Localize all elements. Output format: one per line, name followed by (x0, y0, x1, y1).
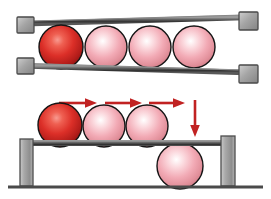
upper-sphere-2 (85, 26, 127, 68)
arrow-down-1 (190, 100, 200, 137)
upper-sphere-4 (173, 26, 215, 68)
lower-shelf-rail (29, 141, 223, 146)
cap-bottom-left (17, 58, 34, 74)
upper-rail-track (17, 12, 258, 83)
lower-sphere-dropped (157, 143, 203, 189)
upper-sphere-group (39, 25, 215, 69)
cap-top-right (239, 12, 258, 30)
upper-sphere-1 (39, 25, 83, 69)
upper-sphere-3 (129, 26, 171, 68)
lower-shelf-track (8, 103, 263, 189)
cap-bottom-right (239, 65, 258, 83)
cap-top-left (17, 17, 34, 33)
post-right (221, 136, 235, 186)
diagram-svg (0, 0, 271, 199)
figure-canvas (0, 0, 271, 199)
post-left (20, 139, 33, 186)
